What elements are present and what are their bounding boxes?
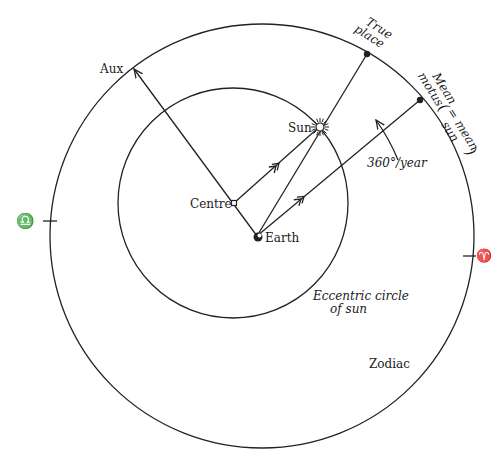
mean-motus-dot: [417, 97, 423, 103]
aries-symbol: ♈: [476, 248, 492, 263]
rotation-arrow: [376, 120, 398, 160]
zodiac-label: Zodiac: [369, 357, 410, 371]
earth-icon: [254, 233, 263, 242]
rate-label: 360°/year: [367, 156, 428, 170]
centre-marker: [232, 201, 237, 206]
libra-symbol: ♎: [16, 212, 35, 230]
true-place-dot: [364, 51, 370, 57]
earth-to-true-place-line: [257, 54, 367, 236]
aux-label: Aux: [99, 62, 123, 76]
eccentric-circle-label-line2: of sun: [330, 302, 367, 316]
sun-icon: [311, 118, 329, 136]
earth-label: Earth: [265, 231, 299, 245]
mean-motus-label: Mean motus ( = mean sun ): [410, 63, 488, 161]
true-place-label: True place: [352, 11, 395, 51]
eccentric-sun-diagram: Aux Centre Earth Sun True place Mean mot…: [0, 0, 499, 462]
sun-label: Sun: [288, 121, 312, 135]
eccentric-circle-label-line1: Eccentric circle: [312, 289, 409, 303]
centre-label: Centre: [190, 197, 232, 211]
